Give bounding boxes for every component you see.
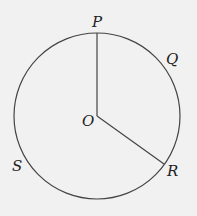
- label-s: S: [12, 159, 22, 174]
- label-r: R: [167, 164, 178, 179]
- label-o: O: [82, 114, 94, 129]
- label-p: P: [92, 15, 102, 30]
- circle-diagram: P Q O S R: [0, 0, 197, 216]
- label-q: Q: [166, 52, 178, 67]
- radius-or: [97, 116, 164, 164]
- diagram-drawing: [0, 0, 197, 216]
